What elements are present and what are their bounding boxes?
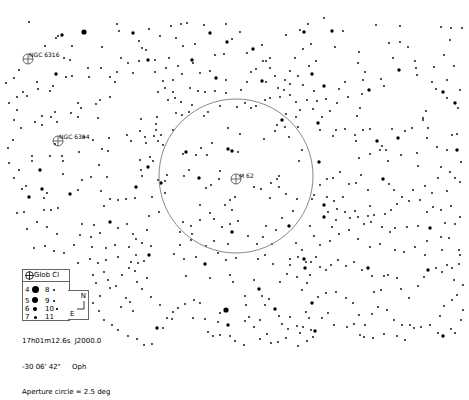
star: [356, 115, 358, 117]
star: [265, 81, 267, 83]
star: [194, 43, 196, 45]
star: [431, 192, 433, 194]
star: [128, 246, 130, 248]
mag-dot-10: [56, 308, 58, 310]
star: [424, 254, 426, 256]
globular-cluster-marker[interactable]: M 62: [231, 172, 254, 184]
star: [297, 126, 299, 128]
star: [440, 26, 442, 28]
star: [230, 149, 233, 152]
star: [31, 160, 33, 162]
star: [179, 231, 181, 233]
star: [116, 71, 118, 73]
star: [322, 203, 325, 206]
coords-dec-line: -30 06' 42" Oph: [22, 363, 110, 372]
star: [248, 316, 250, 318]
star: [230, 230, 233, 233]
star: [41, 124, 43, 126]
star: [459, 254, 461, 256]
star: [379, 243, 381, 245]
star: [358, 314, 360, 316]
star: [125, 198, 127, 200]
star: [317, 160, 320, 163]
star: [106, 176, 108, 178]
star: [433, 66, 435, 68]
star: [136, 338, 138, 340]
star: [305, 261, 307, 263]
star: [371, 275, 373, 277]
star: [322, 215, 325, 218]
star: [414, 246, 416, 248]
star: [423, 276, 425, 278]
star: [355, 182, 357, 184]
star: [44, 245, 46, 247]
star: [145, 142, 147, 144]
star: [417, 225, 419, 227]
star: [73, 244, 75, 246]
star: [453, 65, 455, 67]
star: [114, 81, 116, 83]
star: [186, 22, 188, 24]
star: [126, 134, 128, 136]
star: [49, 90, 51, 92]
star: [266, 333, 268, 335]
star: [284, 79, 286, 81]
star: [145, 49, 147, 51]
star: [397, 68, 400, 71]
mag-label-8: 8: [45, 286, 49, 295]
star: [310, 72, 313, 75]
star: [166, 174, 168, 176]
star: [361, 93, 363, 95]
star: [426, 211, 428, 213]
star: [354, 134, 356, 136]
star: [139, 130, 141, 132]
star: [250, 107, 252, 109]
star: [90, 176, 92, 178]
star: [5, 82, 7, 84]
star: [458, 263, 460, 265]
star: [277, 341, 279, 343]
star: [269, 57, 271, 59]
star: [310, 301, 313, 304]
mag-dot-8: [53, 289, 55, 291]
star: [144, 136, 146, 138]
star: [157, 140, 159, 142]
star: [155, 123, 157, 125]
star: [134, 197, 136, 199]
star: [63, 57, 65, 59]
star: [296, 198, 298, 200]
star: [335, 219, 337, 221]
dec-value: -30 06' 42": [22, 363, 61, 371]
star: [426, 268, 429, 271]
star: [446, 190, 448, 192]
star: [336, 208, 338, 210]
object-label: M 62: [239, 172, 254, 179]
star: [377, 306, 379, 308]
star: [383, 275, 385, 277]
star: [231, 209, 233, 211]
star: [299, 109, 301, 111]
star: [297, 75, 299, 77]
star: [189, 87, 191, 89]
star: [338, 233, 340, 235]
star: [408, 200, 410, 202]
star: [345, 265, 347, 267]
star: [285, 113, 287, 115]
star: [450, 27, 452, 29]
star: [259, 319, 261, 321]
globular-cluster-marker[interactable]: NGC 6316: [23, 51, 60, 64]
star: [449, 39, 451, 41]
star: [308, 317, 310, 319]
star: [309, 274, 311, 276]
star: [92, 274, 94, 276]
star: [353, 323, 355, 325]
star: [62, 160, 64, 162]
star: [225, 23, 227, 25]
star: [443, 54, 445, 56]
star: [257, 258, 259, 260]
star: [225, 259, 227, 261]
star: [357, 238, 359, 240]
globular-cluster-marker[interactable]: NGC 6304: [53, 133, 90, 146]
star: [130, 140, 132, 142]
star: [16, 96, 18, 98]
